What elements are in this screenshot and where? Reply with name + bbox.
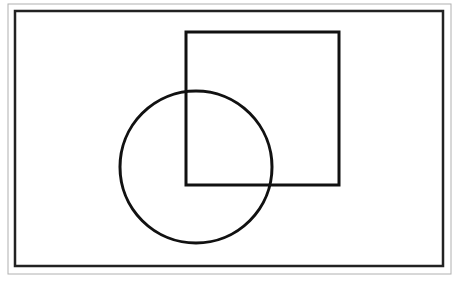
inner-frame: [15, 11, 443, 266]
outer-frame: [8, 4, 451, 274]
diagram-canvas: [0, 0, 459, 281]
square-shape: [186, 32, 339, 185]
circle-shape: [120, 91, 272, 243]
